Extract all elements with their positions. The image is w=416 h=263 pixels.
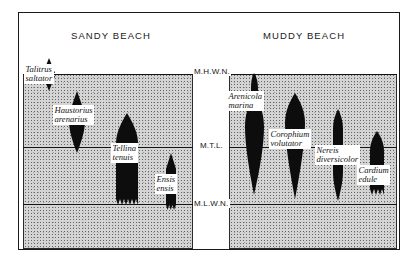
tellina-tenuis-genus: Tellina bbox=[113, 143, 137, 153]
figure-frame: SANDY BEACH MUDDY BEACH M.H.W.N. M.T.L. … bbox=[18, 12, 400, 250]
nereis-diversicolor-genus: Nereis bbox=[317, 145, 339, 155]
arenicola-marina-epithet: marina bbox=[229, 100, 254, 110]
cardium-edule-genus: Cardium bbox=[359, 165, 389, 175]
species-label-talitrus-saltator: Talitrus saltator bbox=[24, 64, 54, 84]
corophium-volutator-genus: Corophium bbox=[271, 129, 310, 139]
ensis-ensis-genus: Ensis bbox=[157, 174, 176, 184]
species-label-ensis-ensis: Ensis ensis bbox=[155, 174, 177, 194]
tide-label-mhwn: M.H.W.N. bbox=[193, 67, 231, 76]
tide-label-mlwn: M.L.W.N. bbox=[193, 199, 230, 208]
tide-line-mlwn-right bbox=[229, 204, 397, 205]
talitrus-saltator-genus: Talitrus bbox=[26, 64, 52, 74]
tide-line-mtl-left bbox=[23, 147, 193, 148]
sandy-beach-title: SANDY BEACH bbox=[71, 30, 151, 41]
haustorius-arenarius-genus: Haustorius bbox=[55, 105, 93, 115]
species-label-tellina-tenuis: Tellina tenuis bbox=[111, 143, 138, 163]
nereis-diversicolor-epithet: diversicolor bbox=[317, 154, 359, 164]
muddy-beach-title: MUDDY BEACH bbox=[263, 30, 345, 41]
haustorius-arenarius-epithet: arenarius bbox=[55, 114, 88, 124]
tide-label-mtl: M.T.L. bbox=[199, 141, 224, 150]
tellina-tenuis-epithet: tenuis bbox=[113, 152, 134, 162]
species-label-arenicola-marina: Arenicola marina bbox=[227, 91, 264, 111]
corophium-volutator-epithet: volutator bbox=[271, 138, 303, 148]
species-label-corophium-volutator: Corophium volutator bbox=[269, 129, 311, 149]
cardium-edule-epithet: edule bbox=[359, 174, 378, 184]
species-label-cardium-edule: Cardium edule bbox=[357, 165, 390, 185]
beach-zonation-figure: SANDY BEACH MUDDY BEACH M.H.W.N. M.T.L. … bbox=[0, 0, 416, 263]
arenicola-marina-genus: Arenicola bbox=[229, 91, 263, 101]
species-label-nereis-diversicolor: Nereis diversicolor bbox=[315, 145, 360, 165]
species-label-haustorius-arenarius: Haustorius arenarius bbox=[53, 105, 94, 125]
talitrus-saltator-epithet: saltator bbox=[26, 73, 53, 83]
ensis-ensis-epithet: ensis bbox=[157, 183, 174, 193]
